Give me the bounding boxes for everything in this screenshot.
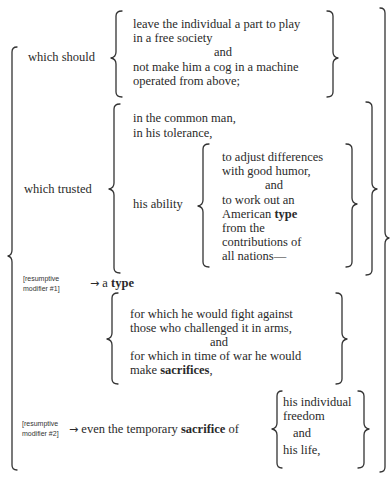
- which-should-item-4: operated from above;: [133, 74, 240, 89]
- his-ability-and: and: [265, 178, 283, 193]
- type-clause-1: for which he would fight against: [130, 307, 293, 322]
- which-should-label: which should: [28, 50, 95, 65]
- resumptive-1-note-line1: [resumptive: [23, 274, 59, 284]
- sacrifice-items-left-brace: [272, 391, 282, 468]
- american-text: American: [222, 207, 274, 221]
- type-clause-2: those who challenged it in arms,: [130, 321, 292, 336]
- sacrifice-item-and: and: [293, 426, 311, 441]
- his-ability-item-5: from the: [222, 221, 265, 236]
- type-clauses-right-brace: [336, 293, 347, 384]
- resumptive-2-note-line2: modifier #2]: [22, 429, 59, 439]
- which-trusted-label: which trusted: [24, 182, 92, 197]
- which-trusted-item-2: in his tolerance,: [133, 126, 213, 141]
- sacrifice-item-3: his life,: [283, 443, 321, 458]
- his-ability-item-2: with good humor,: [222, 164, 311, 179]
- his-ability-item-3: to work out an: [222, 193, 295, 208]
- even-the-temporary-text: even the temporary: [81, 422, 181, 436]
- which-trusted-right-brace: [366, 102, 377, 275]
- resumptive-2-text: → even the temporary sacrifice of: [69, 422, 239, 438]
- his-ability-item-7: all nations—: [222, 249, 286, 264]
- his-ability-item-6: contributions of: [222, 235, 302, 250]
- his-ability-right-brace: [346, 144, 357, 267]
- sacrifice-item-1: his individual: [283, 395, 351, 410]
- which-should-item-1: leave the individual a part to play: [133, 17, 300, 32]
- a-text: a: [102, 276, 111, 290]
- his-ability-item-4: American type: [222, 207, 297, 222]
- type-clauses-left-brace: [107, 293, 118, 384]
- which-should-and: and: [214, 45, 232, 60]
- make-text: make: [130, 363, 160, 377]
- resumptive-1-note-line2: modifier #1]: [23, 284, 60, 294]
- comma-text: ,: [209, 363, 212, 377]
- type-bold: type: [274, 207, 297, 221]
- which-should-item-2: in a free society: [133, 31, 212, 46]
- type-clause-4: make sacrifices,: [130, 363, 213, 378]
- which-should-left-brace: [111, 11, 122, 97]
- his-ability-left-brace: [198, 144, 209, 267]
- type-clause-3: for which in time of war he would: [130, 349, 301, 364]
- sacrifices-bold: sacrifices: [160, 363, 209, 377]
- of-text: of: [225, 422, 239, 436]
- which-should-item-3: not make him a cog in a machine: [133, 60, 299, 75]
- sacrifice-items-right-brace: [358, 391, 369, 468]
- his-ability-label: his ability: [133, 197, 183, 212]
- outer-left-brace: [8, 47, 17, 470]
- arrow-right-icon: →: [90, 277, 99, 290]
- arrow-right-icon: →: [69, 423, 78, 436]
- which-trusted-left-brace: [109, 104, 120, 273]
- which-should-right-brace: [327, 11, 338, 97]
- outer-right-brace: [380, 8, 389, 472]
- which-trusted-item-1: in the common man,: [133, 111, 236, 126]
- type-bold-2: type: [111, 276, 134, 290]
- sacrifice-bold: sacrifice: [181, 422, 225, 436]
- resumptive-2-note-line1: [resumptive: [22, 419, 58, 429]
- resumptive-1-text: → a type: [90, 276, 134, 292]
- sacrifice-item-2: freedom: [283, 409, 325, 424]
- type-clause-and: and: [210, 335, 228, 350]
- his-ability-item-1: to adjust differences: [222, 150, 323, 165]
